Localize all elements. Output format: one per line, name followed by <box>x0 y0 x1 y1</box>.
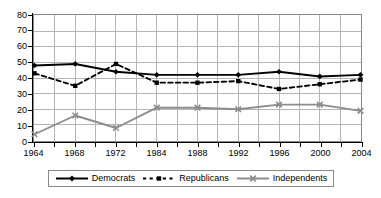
y-tick-label-60: 60 <box>17 42 27 51</box>
y-tick-label-20: 20 <box>17 105 27 114</box>
legend-entry-democrats[interactable]: Democrats <box>55 173 136 184</box>
x-tick-label-2000: 2000 <box>310 148 330 158</box>
x-tick-label-1988: 1988 <box>187 148 207 158</box>
y-tick-mark-40 <box>28 78 32 79</box>
x-tick-mark-minor-6 <box>300 143 301 147</box>
data-point-democrats-1992 <box>235 72 241 78</box>
y-tick-mark-30 <box>28 94 32 95</box>
data-point-democrats-1984 <box>154 72 160 78</box>
x-tick-label-1992: 1992 <box>228 148 248 158</box>
plot-area <box>33 14 362 142</box>
x-tick-mark-minor-0 <box>54 143 55 147</box>
data-point-republicans-1964 <box>32 71 36 75</box>
data-point-democrats-1988 <box>195 72 201 78</box>
x-tick-mark-1996 <box>280 143 281 147</box>
y-tick-mark-0 <box>28 142 32 143</box>
x-tick-mark-1968 <box>75 143 76 147</box>
x-tick-mark-1992 <box>239 143 240 147</box>
x-tick-mark-minor-4 <box>218 143 219 147</box>
x-tick-mark-minor-5 <box>259 143 260 147</box>
chart-legend: DemocratsRepublicansIndependents <box>48 170 334 187</box>
y-tick-mark-80 <box>28 15 32 16</box>
chart-container: 01020304050607080 1964196819721984198819… <box>0 0 381 198</box>
x-tick-label-1972: 1972 <box>105 148 125 158</box>
legend-swatch-diamond-icon <box>55 173 89 184</box>
x-tick-label-1964: 1964 <box>23 148 43 158</box>
y-tick-label-0: 0 <box>22 137 27 146</box>
data-point-republicans-1988 <box>195 81 199 85</box>
y-tick-label-10: 10 <box>17 121 27 130</box>
data-point-republicans-1996 <box>277 87 281 91</box>
y-tick-label-30: 30 <box>17 89 27 98</box>
data-point-republicans-1984 <box>155 81 159 85</box>
y-tick-mark-10 <box>28 126 32 127</box>
y-tick-mark-70 <box>28 30 32 31</box>
y-axis: 01020304050607080 <box>0 14 31 142</box>
y-tick-label-80: 80 <box>17 10 27 19</box>
series-line-independents <box>34 105 360 135</box>
y-tick-mark-50 <box>28 62 32 63</box>
legend-swatch-square-icon <box>142 173 176 184</box>
data-point-republicans-2004 <box>358 77 362 81</box>
series-layer <box>34 15 361 141</box>
x-tick-mark-2004 <box>362 143 363 147</box>
x-tick-mark-minor-2 <box>136 143 137 147</box>
data-point-democrats-2000 <box>317 74 323 80</box>
data-point-republicans-1972 <box>114 62 118 66</box>
x-tick-mark-2000 <box>321 143 322 147</box>
data-point-republicans-1968 <box>73 84 77 88</box>
x-tick-mark-minor-7 <box>341 143 342 147</box>
x-tick-label-1996: 1996 <box>269 148 289 158</box>
data-point-democrats-1972 <box>113 69 119 75</box>
y-tick-mark-60 <box>28 46 32 47</box>
x-tick-label-1984: 1984 <box>146 148 166 158</box>
x-tick-label-2004: 2004 <box>351 148 371 158</box>
x-tick-mark-1972 <box>116 143 117 147</box>
x-tick-mark-minor-1 <box>95 143 96 147</box>
x-tick-mark-minor-3 <box>177 143 178 147</box>
data-point-democrats-2004 <box>358 72 364 78</box>
x-tick-mark-1984 <box>157 143 158 147</box>
legend-label-democrats: Democrats <box>92 174 136 183</box>
data-point-democrats-1968 <box>72 61 78 67</box>
legend-swatch-x-icon <box>236 173 270 184</box>
legend-label-independents: Independents <box>273 174 328 183</box>
data-point-republicans-2000 <box>318 82 322 86</box>
legend-label-republicans: Republicans <box>179 174 229 183</box>
data-point-democrats-1996 <box>276 69 282 75</box>
y-tick-label-50: 50 <box>17 58 27 67</box>
y-tick-label-40: 40 <box>17 74 27 83</box>
data-point-republicans-1992 <box>236 79 240 83</box>
legend-entry-independents[interactable]: Independents <box>236 173 328 184</box>
legend-entry-republicans[interactable]: Republicans <box>142 173 229 184</box>
data-point-democrats-1964 <box>32 63 38 69</box>
y-tick-mark-20 <box>28 110 32 111</box>
x-tick-mark-1964 <box>34 143 35 147</box>
x-tick-label-1968: 1968 <box>64 148 84 158</box>
y-tick-label-70: 70 <box>17 26 27 35</box>
x-tick-mark-1988 <box>198 143 199 147</box>
